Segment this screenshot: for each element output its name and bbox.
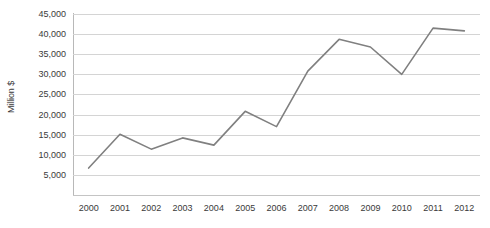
y-axis-tick-labels: 5,00010,00015,00020,00025,00030,00035,00… (14, 0, 66, 200)
y-axis-tick-label: 40,000 (14, 29, 66, 39)
y-axis-tick-label: 25,000 (14, 89, 66, 99)
y-axis-tick-label: 35,000 (14, 49, 66, 59)
x-axis-tick-label: 2012 (444, 203, 484, 213)
line-chart: Million $ 5,00010,00015,00020,00025,0003… (0, 0, 490, 228)
y-axis-tick-label: 30,000 (14, 69, 66, 79)
y-axis-tick-label: 45,000 (14, 9, 66, 19)
plot-area (73, 14, 480, 195)
y-axis-tick-label: 10,000 (14, 150, 66, 160)
series-line (73, 14, 480, 195)
x-axis-line (73, 195, 480, 196)
y-axis-tick-label: 20,000 (14, 110, 66, 120)
x-axis-tick-labels: 2000200120022003200420052006200720082009… (73, 203, 480, 223)
y-axis-tick-label: 15,000 (14, 130, 66, 140)
y-axis-tick-label: 5,000 (14, 170, 66, 180)
